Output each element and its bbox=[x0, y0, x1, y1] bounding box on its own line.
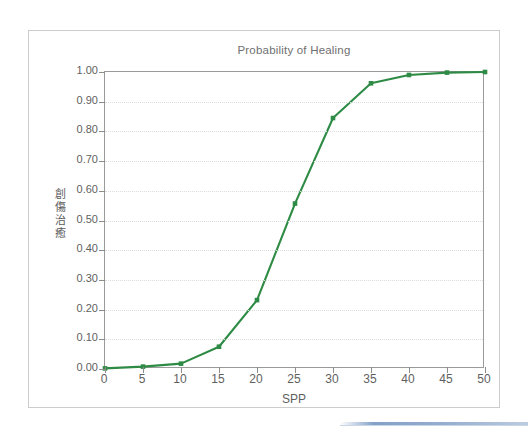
y-axis-tick-label: 0.70 bbox=[52, 153, 98, 165]
data-point-marker bbox=[255, 298, 260, 303]
data-point-marker bbox=[407, 73, 412, 78]
y-axis-tick-label: 0.10 bbox=[52, 331, 98, 343]
y-axis-tick bbox=[99, 161, 105, 162]
gridline-y bbox=[105, 280, 483, 281]
y-axis-tick bbox=[99, 250, 105, 251]
gridline-y bbox=[105, 131, 483, 132]
x-axis-title: SPP bbox=[104, 392, 484, 406]
gridline-y bbox=[105, 191, 483, 192]
y-axis-tick bbox=[99, 191, 105, 192]
data-point-marker bbox=[179, 361, 184, 366]
x-axis-tick-label: 20 bbox=[236, 372, 276, 386]
x-axis-tick-label: 15 bbox=[198, 372, 238, 386]
y-axis-tick-label: 0.30 bbox=[52, 272, 98, 284]
y-axis-tick-label: 0.50 bbox=[52, 213, 98, 225]
decorative-blue-rule-shadow bbox=[340, 425, 528, 426]
data-point-marker bbox=[331, 116, 336, 121]
y-axis-tick bbox=[99, 221, 105, 222]
x-axis-tick-label: 45 bbox=[426, 372, 466, 386]
y-axis-tick bbox=[99, 310, 105, 311]
y-axis-tick bbox=[99, 339, 105, 340]
y-axis-tick-label: 0.80 bbox=[52, 123, 98, 135]
y-axis-tick-label: 0.20 bbox=[52, 302, 98, 314]
y-axis-tick-label: 0.60 bbox=[52, 183, 98, 195]
gridline-y bbox=[105, 339, 483, 340]
y-axis-tick-label: 0.90 bbox=[52, 94, 98, 106]
data-point-marker bbox=[369, 81, 374, 86]
gridline-y bbox=[105, 221, 483, 222]
chart-figure: Probability of Healing 創傷治癒 SPP 0.000.10… bbox=[0, 0, 528, 434]
x-axis-tick-label: 0 bbox=[84, 372, 124, 386]
y-axis-tick bbox=[99, 280, 105, 281]
data-point-marker bbox=[293, 201, 298, 206]
y-axis-title-char-3: 癒 bbox=[52, 227, 68, 240]
y-axis-tick bbox=[99, 72, 105, 73]
chart-title: Probability of Healing bbox=[104, 44, 484, 56]
data-point-marker bbox=[483, 70, 488, 75]
x-axis-tick-label: 35 bbox=[350, 372, 390, 386]
x-axis-tick-label: 40 bbox=[388, 372, 428, 386]
x-axis-tick-label: 50 bbox=[464, 372, 504, 386]
gridline-y bbox=[105, 250, 483, 251]
gridline-y bbox=[105, 102, 483, 103]
gridline-y bbox=[105, 161, 483, 162]
y-axis-tick bbox=[99, 102, 105, 103]
y-axis-tick-label: 0.40 bbox=[52, 242, 98, 254]
x-axis-tick-label: 30 bbox=[312, 372, 352, 386]
plot-area bbox=[104, 71, 484, 368]
y-axis-tick-label: 1.00 bbox=[52, 64, 98, 76]
data-point-marker bbox=[445, 70, 450, 75]
x-axis-tick-label: 25 bbox=[274, 372, 314, 386]
plot-inner bbox=[105, 72, 483, 367]
gridline-y bbox=[105, 310, 483, 311]
y-axis-tick bbox=[99, 131, 105, 132]
x-axis-tick-label: 10 bbox=[160, 372, 200, 386]
x-axis-tick-label: 5 bbox=[122, 372, 162, 386]
data-point-marker bbox=[217, 344, 222, 349]
